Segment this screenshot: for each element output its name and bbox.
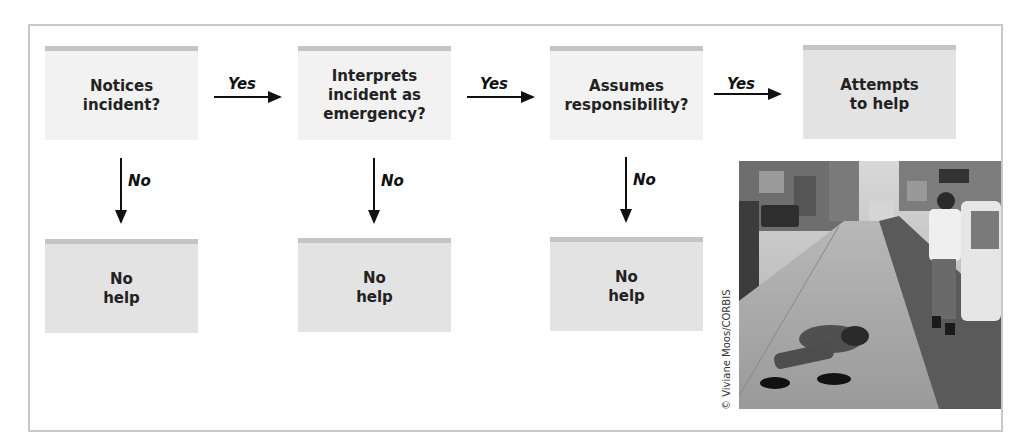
yes-label-2: Yes — [480, 75, 508, 93]
outcome-label: No help — [356, 269, 393, 307]
no-label-2: No — [381, 172, 404, 190]
no-arrow-icon-2 — [373, 158, 375, 222]
outcome-label: No help — [608, 268, 645, 306]
bystander-photo-icon — [739, 161, 1001, 409]
outcome-no-help-3: No help — [550, 237, 703, 331]
yes-arrow-icon-1 — [214, 96, 280, 98]
no-arrow-icon-3 — [625, 157, 627, 221]
yes-label-3: Yes — [727, 75, 755, 93]
outcome-label: Attempts to help — [840, 76, 919, 114]
no-label-3: No — [633, 171, 656, 189]
step-label: Notices incident? — [83, 77, 160, 115]
step-label: Assumes responsibility? — [564, 77, 688, 115]
step-notices-incident: Notices incident? — [45, 46, 198, 140]
yes-arrow-icon-3 — [714, 93, 780, 95]
yes-arrow-icon-2 — [467, 96, 533, 98]
yes-label-1: Yes — [228, 75, 256, 93]
outcome-no-help-1: No help — [45, 239, 198, 333]
step-interprets-emergency: Interprets incident as emergency? — [298, 46, 451, 140]
outcome-label: No help — [103, 270, 140, 308]
photo-credit: © Viviane Moos/CORBIS — [721, 290, 732, 410]
street-photo — [739, 161, 1001, 409]
outcome-attempts-to-help: Attempts to help — [803, 45, 956, 139]
no-arrow-icon-1 — [120, 158, 122, 222]
step-label: Interprets incident as emergency? — [323, 67, 425, 124]
no-label-1: No — [128, 172, 151, 190]
outcome-no-help-2: No help — [298, 238, 451, 332]
step-assumes-responsibility: Assumes responsibility? — [550, 46, 703, 140]
